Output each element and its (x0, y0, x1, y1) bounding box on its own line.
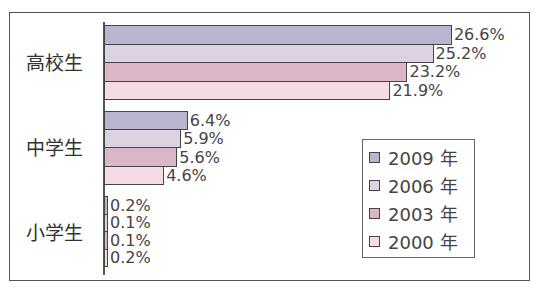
legend-swatch-2000 (369, 236, 380, 247)
legend-label-2000: 2000 年 (388, 228, 458, 254)
value-label-middle-school-2000: 4.6% (166, 167, 207, 185)
value-label-middle-school-2009: 6.4% (190, 112, 231, 130)
legend-label-2003: 2003 年 (388, 200, 458, 226)
legend-item-2009: 2009 年 (369, 146, 458, 168)
value-label-middle-school-2003: 5.6% (179, 149, 220, 167)
category-label-elementary: 小学生 (26, 222, 90, 244)
bar-elementary-2000 (104, 249, 108, 268)
legend-swatch-2003 (369, 208, 380, 219)
bar-middle-school-2006 (104, 129, 181, 148)
legend-label-2009: 2009 年 (388, 144, 458, 170)
legend-label-2006: 2006 年 (388, 172, 458, 198)
bar-high-school-2000 (104, 81, 390, 101)
value-label-high-school-2003: 23.2% (409, 63, 460, 81)
bar-high-school-2003 (104, 62, 407, 82)
bar-elementary-2006 (104, 214, 108, 233)
value-label-high-school-2006: 25.2% (436, 45, 487, 63)
legend: 2009 年 2006 年 2003 年 2000 年 (362, 139, 475, 258)
bar-elementary-2003 (104, 231, 108, 250)
value-label-elementary-2006: 0.1% (110, 214, 151, 232)
value-label-high-school-2000: 21.9% (392, 82, 443, 100)
bar-middle-school-2009 (104, 111, 188, 130)
category-label-middle-school: 中学生 (26, 137, 90, 159)
value-label-elementary-2009: 0.2% (110, 197, 151, 215)
value-label-elementary-2003: 0.1% (110, 232, 151, 250)
legend-item-2006: 2006 年 (369, 174, 458, 196)
bar-high-school-2009 (104, 25, 452, 45)
bar-middle-school-2000 (104, 166, 164, 185)
legend-swatch-2009 (369, 152, 380, 163)
bar-middle-school-2003 (104, 147, 177, 166)
value-label-middle-school-2006: 5.9% (183, 130, 224, 148)
bar-elementary-2009 (104, 196, 108, 215)
value-label-elementary-2000: 0.2% (110, 249, 151, 267)
value-label-high-school-2009: 26.6% (454, 26, 505, 44)
category-label-high-school: 高校生 (26, 52, 90, 74)
bar-high-school-2006 (104, 44, 434, 64)
legend-item-2000: 2000 年 (369, 230, 458, 252)
legend-swatch-2006 (369, 180, 380, 191)
legend-item-2003: 2003 年 (369, 202, 458, 224)
